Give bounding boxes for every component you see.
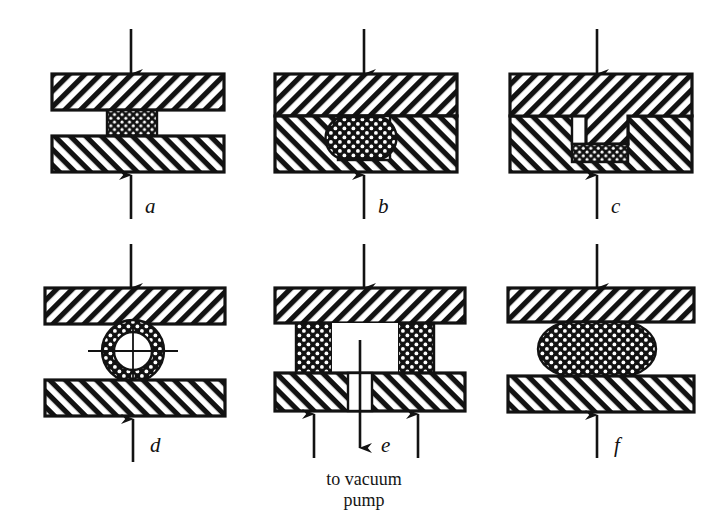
compression-test-diagram: a (0, 0, 728, 519)
panel-e-upper-platen (275, 288, 465, 323)
figure-container: a (0, 0, 728, 519)
panel-a-label: a (145, 194, 156, 218)
panel-f-upper-platen (508, 288, 694, 322)
panel-d-upper-platen (45, 288, 225, 324)
panel-b-specimen (326, 117, 397, 159)
panel-c-specimen (572, 144, 628, 162)
panel-a-lower-platen (52, 136, 224, 172)
panel-b-label: b (378, 194, 389, 218)
panel-e-specimen-left (296, 323, 332, 373)
panel-d-lower-platen (45, 380, 225, 416)
panel-a-upper-platen (52, 74, 224, 110)
panel-e-lower-platen (275, 373, 465, 411)
panel-d-label: d (150, 433, 161, 457)
panel-f-lower-platen (508, 376, 694, 412)
panel-e-label: e (381, 433, 390, 457)
panel-e-specimen-right (398, 323, 434, 373)
panel-e-vacuum-chamber (332, 323, 398, 373)
panel-f-specimen (538, 322, 656, 376)
vacuum-caption-line-2: pump (343, 490, 384, 510)
panel-a-specimen (107, 110, 157, 136)
vacuum-caption-line-1: to vacuum (326, 469, 401, 489)
panel-b-upper-die (275, 74, 457, 116)
panel-c-label: c (611, 194, 621, 218)
